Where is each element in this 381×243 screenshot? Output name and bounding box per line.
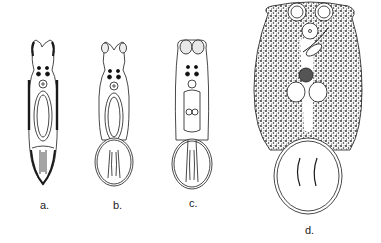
panel-d-organism [254,2,362,214]
panel-c-organism [172,40,212,189]
panel-label-c: c. [189,197,198,209]
panel-label-a: a. [40,199,49,211]
panel-a-organism [29,40,58,184]
panel-b-organism [95,42,133,186]
panel-label-d: d. [305,224,314,236]
panel-label-b: b. [113,199,122,211]
